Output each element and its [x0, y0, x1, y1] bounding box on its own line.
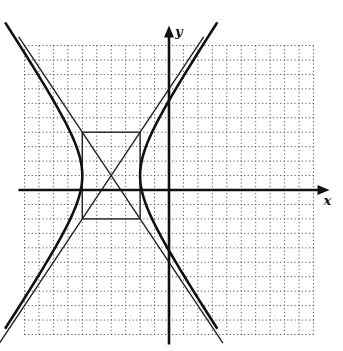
hyperbola-graph: x y: [0, 0, 343, 351]
x-axis-label: x: [323, 193, 332, 208]
y-axis-arrow-icon: [164, 26, 174, 38]
y-axis-label: y: [174, 24, 184, 39]
